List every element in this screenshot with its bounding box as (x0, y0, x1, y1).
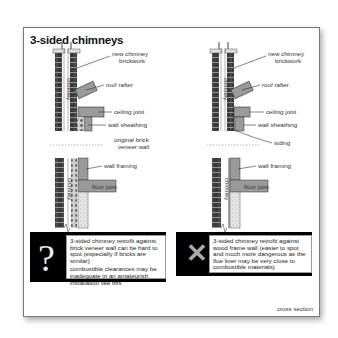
label-new-chimney-right: new chimney (268, 50, 305, 57)
left-warning-note: ? 3-sided chimney retrofit against brick… (30, 232, 166, 282)
label-siding: siding (274, 139, 291, 146)
label-brickwork: brickwork (119, 57, 146, 64)
left-note-text-1: 3-sided chimney retrofit against brick v… (70, 238, 162, 264)
label-roof-rafter: roof rafter (106, 81, 133, 88)
label-roof-rafter-right: roof rafter (262, 81, 289, 88)
label-wall-framing-right: wall framing (257, 162, 292, 169)
label-floor-joist: floor joist (92, 183, 117, 190)
label-original-brick: original brick (114, 136, 150, 143)
label-chimney-lower: chimney (67, 178, 73, 200)
label-wall-sheathing: wall sheathing (107, 121, 148, 128)
question-mark-icon: ? (38, 236, 55, 280)
x-mark-icon: ✕ (186, 238, 208, 269)
caption-cross-section: cross section (277, 305, 313, 312)
left-drawing (50, 42, 116, 232)
right-note-text: 3-sided chimney retrofit against wood fr… (209, 235, 312, 273)
left-note-text: 3-sided chimney retrofit against brick v… (66, 235, 166, 279)
label-chimney-upper-right: chimney (223, 78, 229, 100)
right-warning-note: ✕ 3-sided chimney retrofit against wood … (176, 232, 312, 276)
label-chimney-lower-right: chimney (224, 178, 230, 200)
label-veneer-wall: veneer wall (118, 143, 149, 150)
label-floor-joist-right: floor joist (244, 183, 269, 190)
label-brickwork-right: brickwork (275, 57, 302, 64)
right-drawing (207, 42, 272, 232)
label-wall-sheathing-right: wall sheathing (257, 121, 298, 128)
label-chimney-upper: chimney (66, 78, 72, 100)
label-wall-framing: wall framing (103, 162, 138, 169)
diagram-card: 3-sided chimneys (23, 27, 320, 317)
left-note-text-2: combustible clearances may be inadequate… (70, 266, 162, 286)
label-ceiling-joist-right: ceiling joist (266, 108, 297, 115)
label-ceiling-joist: ceiling joist (114, 108, 145, 115)
label-new-chimney: new chimney (112, 50, 149, 57)
